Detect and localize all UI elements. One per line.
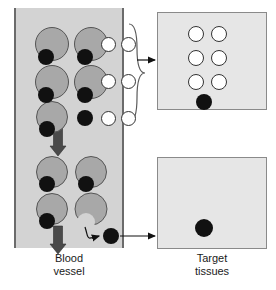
bound-drug-molecule <box>39 176 55 192</box>
free-carrier-receptor <box>101 37 116 52</box>
drug-delivery-diagram: Blood vessel Target tissues <box>0 0 276 290</box>
tissue-receptor <box>188 50 204 66</box>
empty-carrier-with-notch <box>72 190 110 236</box>
bound-drug-molecule <box>39 213 55 229</box>
tissue-drug-molecule <box>196 94 212 110</box>
bound-drug-molecule <box>39 121 55 137</box>
free-carrier-receptor <box>121 74 136 89</box>
blood-vessel-label: Blood vessel <box>34 252 104 278</box>
free-carrier-receptor <box>121 37 136 52</box>
free-carrier-receptor <box>101 74 116 89</box>
bound-drug-molecule <box>77 49 93 65</box>
tissue-receptor <box>188 74 204 90</box>
free-carrier-receptor <box>101 111 116 126</box>
tissue-receptor <box>211 26 227 42</box>
tissue-receptor <box>211 50 227 66</box>
bound-drug-molecule <box>77 87 93 103</box>
target-tissues-label: Target tissues <box>177 252 247 278</box>
bound-drug-molecule <box>38 49 54 65</box>
tissue-receptor <box>188 26 204 42</box>
bound-drug-molecule <box>38 87 54 103</box>
free-drug-molecule <box>77 110 93 126</box>
target-tissue-panel-bottom <box>157 157 267 249</box>
tissue-receptor <box>211 74 227 90</box>
free-carrier-receptor <box>121 111 136 126</box>
free-drug-molecule <box>103 228 119 244</box>
bound-drug-molecule <box>78 176 94 192</box>
delivered-drug-molecule <box>195 219 213 237</box>
